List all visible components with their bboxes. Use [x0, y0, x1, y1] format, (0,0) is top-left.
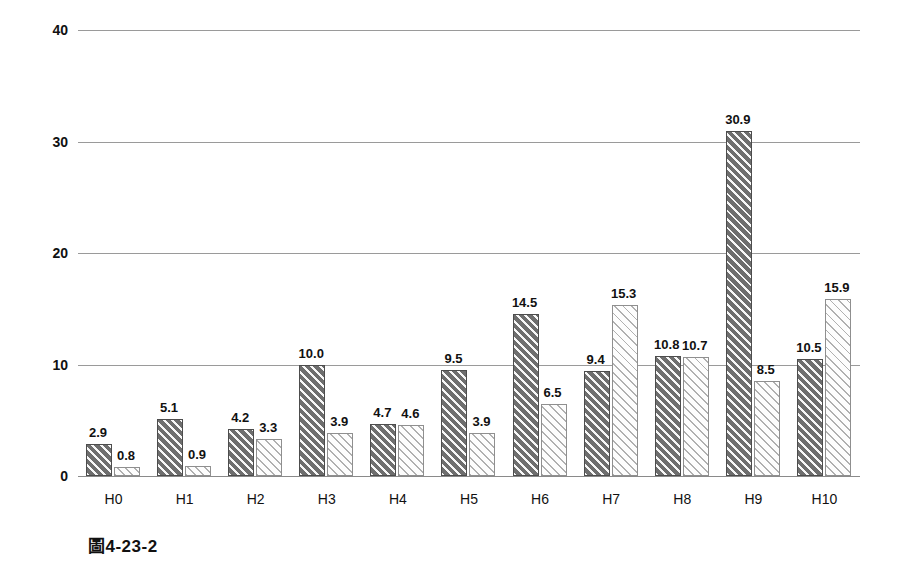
x-tick-label: H0	[78, 492, 149, 506]
x-axis-labels: H0H1H2H3H4H5H6H7H8H9H10	[78, 0, 860, 583]
x-tick-label: H10	[789, 492, 860, 506]
y-tick-label: 40	[28, 23, 68, 37]
y-tick-label: 10	[28, 358, 68, 372]
x-tick-label: H7	[576, 492, 647, 506]
y-axis: 010203040	[20, 30, 68, 476]
x-tick-label: H5	[433, 492, 504, 506]
x-tick-label: H8	[647, 492, 718, 506]
x-tick-label: H4	[362, 492, 433, 506]
x-tick-label: H2	[220, 492, 291, 506]
y-tick-label: 0	[28, 469, 68, 483]
x-tick-label: H9	[718, 492, 789, 506]
x-tick-label: H3	[291, 492, 362, 506]
figure-caption: 圖4-23-2	[88, 532, 158, 557]
y-tick-label: 20	[28, 246, 68, 260]
x-tick-label: H6	[505, 492, 576, 506]
x-tick-label: H1	[149, 492, 220, 506]
figure-container: 010203040 2.90.85.10.94.23.310.03.94.74.…	[0, 0, 909, 583]
y-tick-label: 30	[28, 135, 68, 149]
